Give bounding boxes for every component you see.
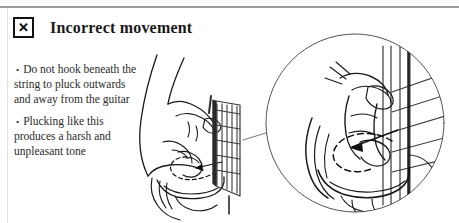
callout-connector xyxy=(243,132,269,140)
left-divider xyxy=(7,8,8,223)
section-header: ✕ Incorrect movement xyxy=(13,17,192,38)
instruction-text-column: •Do not hook beneath the string to pluck… xyxy=(14,62,142,166)
main-hand-drawing xyxy=(140,55,240,220)
bullet-marker: • xyxy=(14,65,23,75)
bullet-marker: • xyxy=(14,117,23,127)
bullet-item: •Do not hook beneath the string to pluck… xyxy=(14,62,142,106)
detail-circle xyxy=(266,34,444,212)
x-mark-glyph: ✕ xyxy=(18,21,29,34)
x-mark-icon: ✕ xyxy=(13,17,34,38)
detail-drawing xyxy=(306,46,455,214)
fretboard-main xyxy=(213,100,240,196)
top-divider xyxy=(0,6,459,8)
bullet-text: Plucking like this produces a harsh and … xyxy=(14,115,111,157)
page-title: Incorrect movement xyxy=(50,19,192,37)
instruction-page: ✕ Incorrect movement •Do not hook beneat… xyxy=(0,0,459,223)
bullet-item: •Plucking like this produces a harsh and… xyxy=(14,114,142,158)
bullet-text: Do not hook beneath the string to pluck … xyxy=(14,63,136,105)
